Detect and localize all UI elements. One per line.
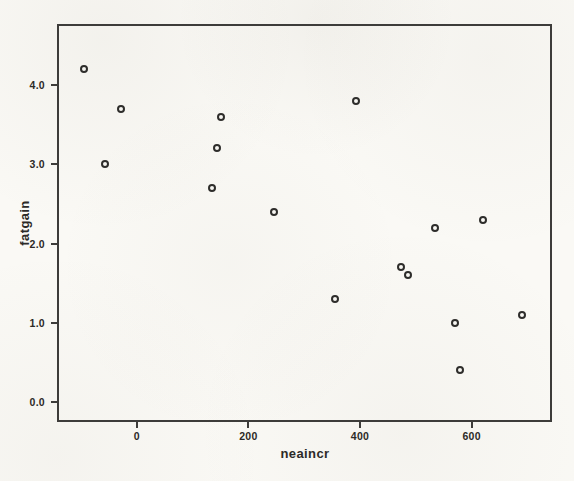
y-tick-label: 4.0 (30, 79, 46, 91)
y-tick-mark (51, 401, 57, 403)
data-point (117, 105, 125, 113)
y-tick-mark (51, 163, 57, 165)
y-tick-label: 0.0 (30, 396, 46, 408)
y-tick-label: 1.0 (30, 317, 46, 329)
data-point (331, 295, 339, 303)
data-point (217, 113, 225, 121)
data-point (479, 216, 487, 224)
y-tick-label: 2.0 (30, 238, 46, 250)
x-axis-label: neaincr (280, 446, 329, 461)
x-tick-mark (136, 422, 138, 428)
x-tick-label: 600 (462, 430, 480, 442)
y-tick-mark (51, 322, 57, 324)
scanned-chart-page: 02004006000.01.02.03.04.0 fatgain neainc… (0, 0, 574, 481)
x-tick-mark (247, 422, 249, 428)
y-axis-label: fatgain (17, 200, 32, 245)
y-tick-mark (51, 84, 57, 86)
x-tick-label: 0 (134, 430, 140, 442)
x-tick-mark (471, 422, 473, 428)
y-tick-label: 3.0 (30, 158, 46, 170)
data-point (352, 97, 360, 105)
data-point (270, 208, 278, 216)
y-tick-mark (51, 243, 57, 245)
plot-frame (57, 24, 552, 422)
x-tick-mark (359, 422, 361, 428)
x-tick-label: 400 (351, 430, 369, 442)
data-point (518, 311, 526, 319)
x-tick-label: 200 (239, 430, 257, 442)
